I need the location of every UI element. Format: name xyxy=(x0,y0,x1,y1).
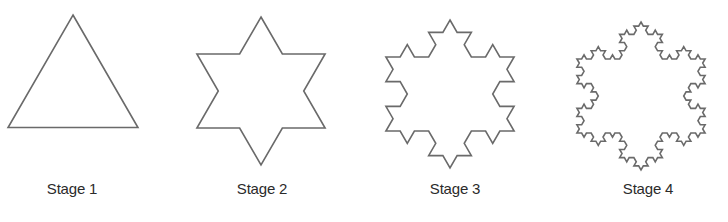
stage-2-label: Stage 2 xyxy=(202,180,322,197)
stage-3-snowflake-shape xyxy=(386,20,514,168)
stage-4-snowflake-shape xyxy=(577,22,705,170)
stage-2-star-shape xyxy=(197,17,325,165)
stage-1-triangle-shape xyxy=(8,15,138,128)
stage-3-label: Stage 3 xyxy=(395,180,515,197)
stage-1-label: Stage 1 xyxy=(12,180,132,197)
stage-4-label: Stage 4 xyxy=(588,180,708,197)
